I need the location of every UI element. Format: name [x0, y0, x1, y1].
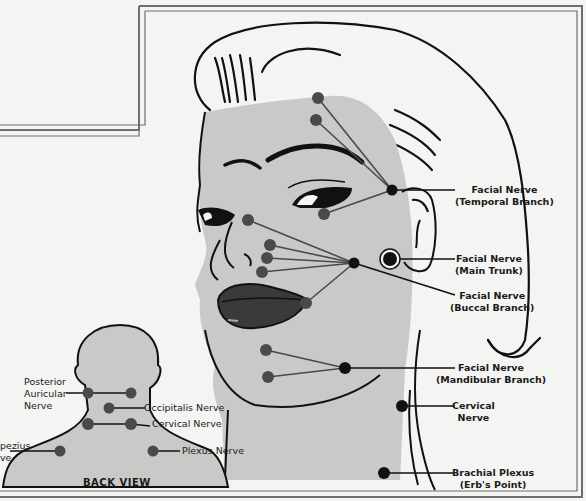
label-line: ve — [0, 452, 30, 464]
label-posterior-auricular: Posterior Auricular Nerve — [24, 376, 67, 412]
label-line: Auricular — [24, 388, 67, 400]
label-line: (Erb's Point) — [452, 479, 534, 491]
label-line: Brachial Plexus — [452, 467, 534, 479]
facial-nerve-diagram — [0, 0, 586, 501]
label-facial-mandibular: Facial Nerve (Mandibular Branch) — [436, 362, 546, 386]
label-line: Posterior — [24, 376, 67, 388]
label-facial-main-trunk: Facial Nerve (Main Trunk) — [455, 253, 523, 277]
label-occipitalis: Occipitalis Nerve — [144, 402, 224, 414]
label-line: Facial Nerve — [455, 184, 554, 196]
label-brachial-plexus: Brachial Plexus (Erb's Point) — [452, 467, 534, 491]
label-line: Nerve — [24, 400, 67, 412]
label-trapezius: pezius ve — [0, 440, 30, 464]
label-line: Facial Nerve — [450, 290, 534, 302]
label-line: (Main Trunk) — [455, 265, 523, 277]
back-view-title: BACK VIEW — [83, 477, 151, 488]
label-line: (Mandibular Branch) — [436, 374, 546, 386]
label-line: (Buccal Branch) — [450, 302, 534, 314]
label-line: Cervical — [452, 400, 495, 412]
label-line: Nerve — [452, 412, 495, 424]
label-line: Facial Nerve — [455, 253, 523, 265]
label-facial-temporal: Facial Nerve (Temporal Branch) — [455, 184, 554, 208]
label-plexus: Plexus Nerve — [182, 445, 244, 457]
main-trunk-point — [380, 249, 400, 269]
label-line: pezius — [0, 440, 30, 452]
label-cervical-back: Cervical Nerve — [152, 418, 222, 430]
label-line: (Temporal Branch) — [455, 196, 554, 208]
neck-right-line — [415, 330, 435, 490]
label-line: Facial Nerve — [436, 362, 546, 374]
label-facial-buccal: Facial Nerve (Buccal Branch) — [450, 290, 534, 314]
label-cervical-nerve: Cervical Nerve — [452, 400, 495, 424]
